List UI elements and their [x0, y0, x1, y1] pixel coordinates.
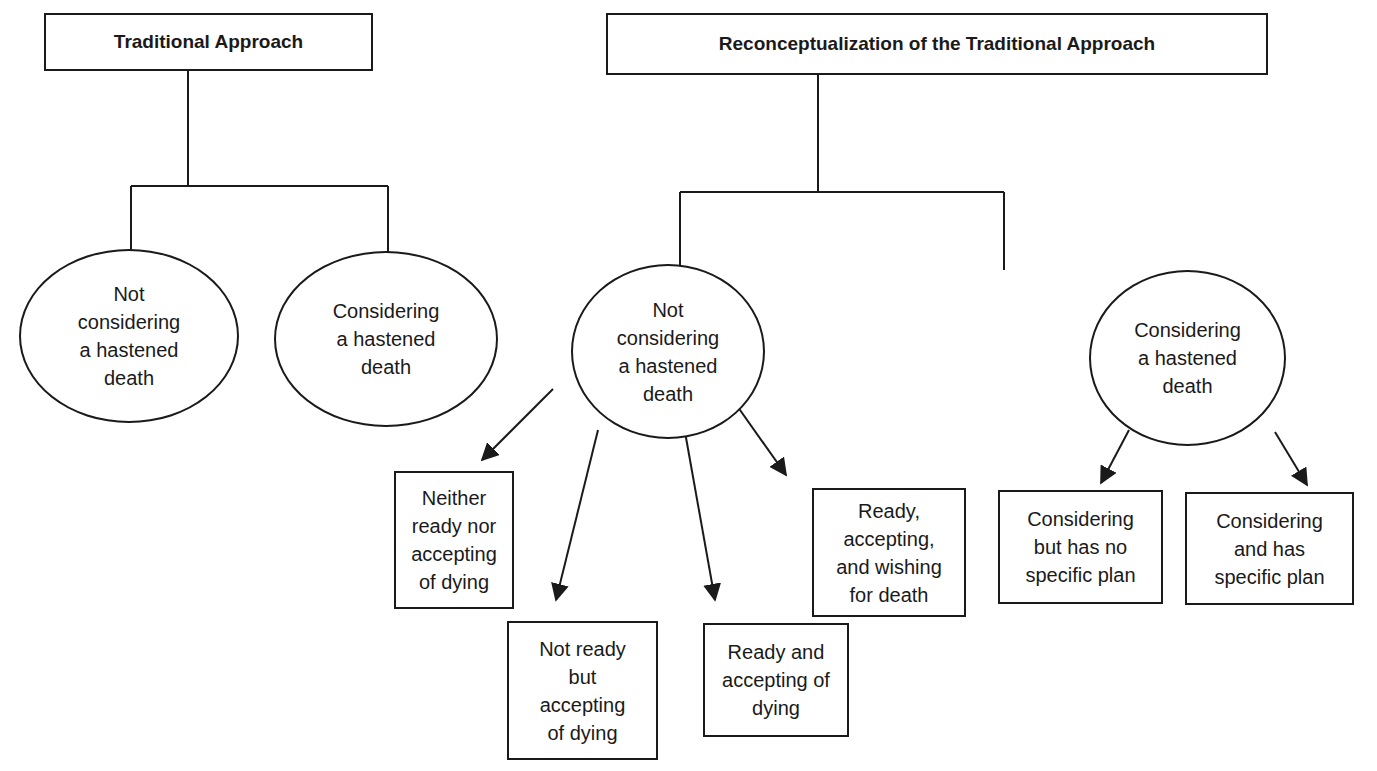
- neither-ready-nor-accepting-box: Neither ready nor accepting of dying: [394, 471, 514, 609]
- considering-specific-plan-box: Considering and has specific plan: [1185, 492, 1354, 605]
- reconcept-not-considering-node: Not considering a hastened death: [571, 264, 765, 439]
- traditional-not-considering-node: Not considering a hastened death: [19, 249, 239, 423]
- considering-no-plan-box: Considering but has no specific plan: [998, 490, 1163, 604]
- reconceptualization-header: Reconceptualization of the Traditional A…: [606, 13, 1268, 75]
- traditional-considering-node: Considering a hastened death: [274, 251, 498, 427]
- reconcept-considering-node: Considering a hastened death: [1089, 270, 1286, 446]
- ready-and-accepting-box: Ready and accepting of dying: [703, 623, 849, 737]
- traditional-approach-header: Traditional Approach: [44, 13, 373, 71]
- ready-accepting-wishing-box: Ready, accepting, and wishing for death: [812, 488, 966, 617]
- not-ready-but-accepting-box: Not ready but accepting of dying: [507, 621, 658, 760]
- hastened-death-diagram: Traditional Approach Reconceptualization…: [0, 0, 1377, 771]
